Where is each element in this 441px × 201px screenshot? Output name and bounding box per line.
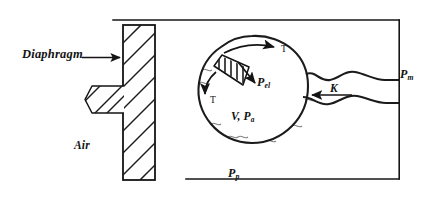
label-tension-top: T xyxy=(281,45,287,55)
label-air: Air xyxy=(74,140,90,152)
label-pleural-pressure-symbol: P xyxy=(228,166,236,180)
label-elastic-pressure-subscript: el xyxy=(265,81,271,90)
label-tension-left: T xyxy=(210,96,216,106)
label-diaphragm: Diaphragm xyxy=(22,48,83,61)
label-resistance: K xyxy=(330,83,338,95)
label-mouth-pressure-symbol: P xyxy=(400,67,408,81)
label-pleural-pressure-subscript: p xyxy=(236,172,240,181)
diaphragm-block xyxy=(118,6,160,201)
label-volume-separator: , xyxy=(237,110,240,122)
diagram-canvas: Diaphragm Air T T Pel V, Pa Pp K Pm xyxy=(0,0,441,201)
label-alveolar-pressure-subscript: a xyxy=(251,115,255,124)
balloon-lung-outline xyxy=(199,36,316,143)
label-pleural-pressure: Pp xyxy=(228,167,239,180)
label-volume-alveolar: V, Pa xyxy=(231,111,254,123)
label-elastic-pressure-symbol: P xyxy=(257,75,265,89)
label-alveolar-pressure-symbol: P xyxy=(244,110,251,122)
diagram-vector-layer xyxy=(0,0,441,201)
label-mouth-pressure: Pm xyxy=(400,68,414,81)
airway-neck xyxy=(303,72,399,105)
label-elastic-pressure: Pel xyxy=(257,76,270,89)
label-mouth-pressure-subscript: m xyxy=(408,73,414,82)
